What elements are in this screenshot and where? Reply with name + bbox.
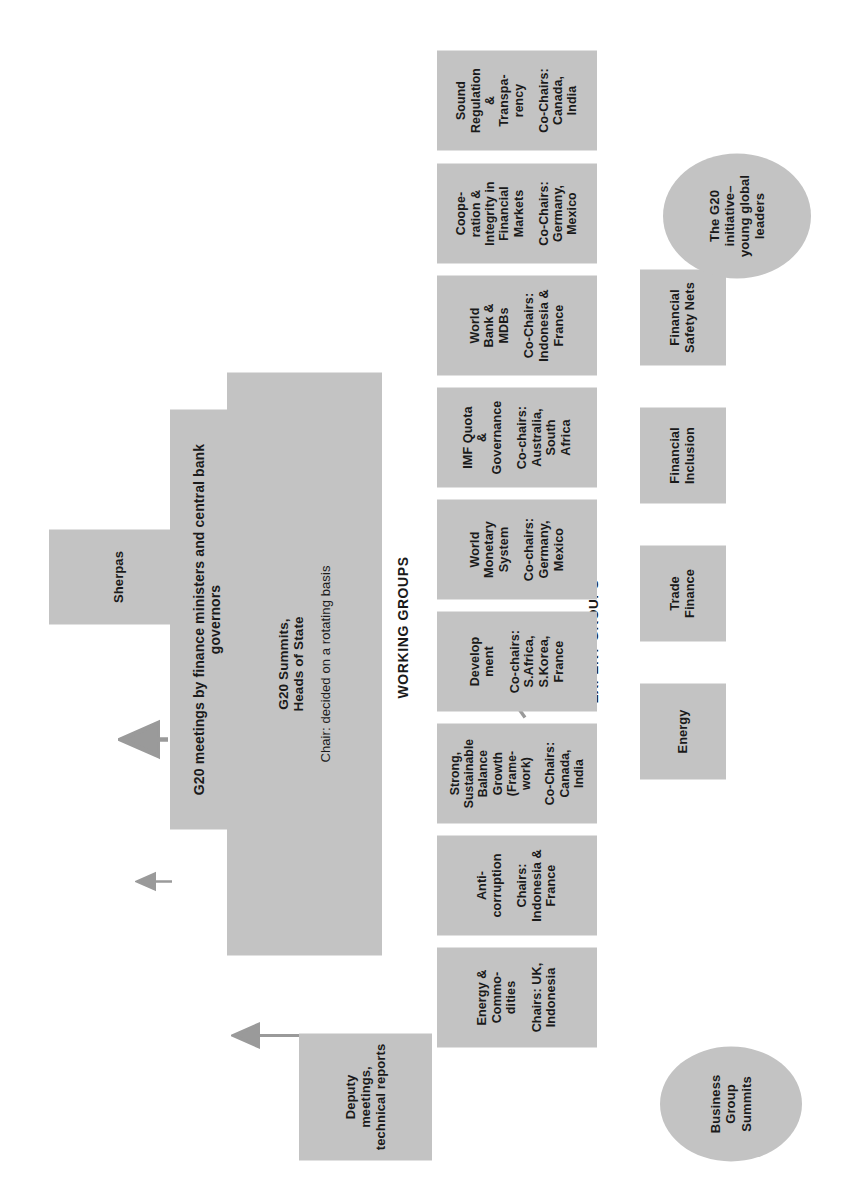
wg-chairs-line: Co-Chairs:: [537, 181, 551, 245]
wg-title-line: (Frame-: [505, 750, 519, 795]
yg-line4: leaders: [752, 192, 767, 238]
wg-chairs-line: Canada,: [551, 76, 565, 125]
node-deputy-meetings[interactable]: Deputy meetings, technical reports: [299, 1033, 432, 1160]
node-g20-summits[interactable]: G20 Summits, Heads of State Chair: decid…: [227, 372, 382, 955]
eg-title-line: Financial: [668, 289, 683, 345]
node-working-group-world-bank-mdbs[interactable]: WorldBank &MDBsCo-Chairs:Indonesia &Fran…: [437, 275, 597, 375]
wg-chairs-line: Indonesia: [544, 967, 559, 1027]
wg-title-line: Strong,: [448, 751, 462, 794]
wg-title-line: World: [468, 531, 483, 567]
wg-title-line: Governance: [490, 400, 505, 474]
wg-chairs-line: Co-chairs:: [508, 629, 523, 692]
wg-title-line: ration &: [469, 189, 483, 237]
node-working-group-framework[interactable]: Strong,SustainableBalanceGrowth(Frame-wo…: [437, 723, 597, 823]
wg-title-line: Energy &: [475, 969, 490, 1025]
wg-chairs-line: Indonesia &: [537, 289, 552, 361]
node-working-group-cooperation-integrity[interactable]: Coope-ration &Integrity inFinancialMarke…: [437, 163, 597, 263]
wg-title-line: Commo-: [490, 971, 505, 1023]
eg-title-line: Finance: [683, 568, 698, 617]
wg-chairs-line: Canada,: [558, 749, 572, 797]
wg-chairs-line: Germany,: [551, 184, 565, 241]
node-working-group-energy-commodities[interactable]: Energy &Commo-ditiesChairs: UK,Indonesia: [437, 947, 597, 1047]
node-working-group-sound-regulation[interactable]: SoundRegulation&Transpa-rencyCo-Chairs:C…: [437, 50, 597, 150]
wg-title-line: System: [497, 526, 512, 571]
wg-chairs-line: Chairs: UK,: [530, 962, 545, 1032]
wg-chairs-line: India: [572, 759, 586, 788]
wg-title-line: Anti-: [475, 870, 490, 899]
node-sherpas-title: Sherpas: [111, 551, 126, 603]
wg-title-line: Growth: [491, 751, 505, 794]
node-expert-group-trade-finance[interactable]: TradeFinance: [640, 545, 726, 641]
wg-title-line: Balance: [476, 749, 490, 796]
node-expert-group-financial-safety-nets[interactable]: FinancialSafety Nets: [640, 269, 726, 365]
wg-title-line: MDBs: [497, 307, 512, 343]
wg-title-line: Integrity in: [483, 181, 497, 246]
node-working-group-anti-corruption[interactable]: Anti-corruptionChairs:Indonesia &France: [437, 835, 597, 935]
diagram-canvas: Sherpas G20 Summits, Heads of State Chai…: [0, 0, 856, 1187]
wg-chairs-line: Co-Chairs:: [522, 292, 537, 357]
node-g20-young-global-leaders[interactable]: The G20 initiative– young global leaders: [663, 153, 811, 278]
ministers-line2: governors: [207, 584, 223, 653]
wg-title-line: Bank &: [482, 303, 497, 347]
wg-chairs-line: Mexico: [552, 527, 567, 570]
node-working-group-world-monetary-system[interactable]: WorldMonetarySystemCo-chairs:Germany,Mex…: [437, 499, 597, 599]
wg-title-line: Sound: [454, 80, 468, 119]
deputies-line3: technical reports: [373, 1043, 388, 1149]
wg-chairs-line: Co-Chairs:: [537, 68, 551, 132]
wg-chairs-line: S.Africa,: [522, 635, 537, 687]
yg-line3: young global: [737, 174, 752, 256]
eg-title-line: Energy: [676, 709, 691, 753]
wg-chairs-line: Co-chairs:: [522, 517, 537, 580]
node-expert-group-financial-inclusion[interactable]: FinancialInclusion: [640, 407, 726, 503]
wg-title-line: ment: [482, 646, 497, 677]
node-sherpas[interactable]: Sherpas: [49, 529, 189, 624]
yg-line1: The G20: [707, 190, 722, 242]
summits-title-line2: Heads of State: [291, 616, 307, 711]
node-working-group-development[interactable]: DevelopmentCo-chairs:S.Africa,S.Korea,Fr…: [437, 611, 597, 711]
eg-title-line: Financial: [668, 427, 683, 483]
node-working-group-imf-quota-governance[interactable]: IMF Quota&GovernanceCo-chairs:Australia,…: [437, 387, 597, 487]
summits-title-line1: G20 Summits,: [276, 618, 292, 709]
wg-title-line: IMF Quota: [461, 406, 476, 468]
ministers-line1: G20 meetings by finance ministers and ce…: [191, 443, 207, 794]
eg-title-line: Safety Nets: [683, 282, 698, 353]
wg-chairs-line: Australia,: [530, 408, 545, 466]
summits-chair-note: Chair: decided on a rotating basis: [318, 565, 333, 762]
wg-title-line: corruption: [490, 853, 505, 917]
eg-title-line: Trade: [668, 576, 683, 611]
wg-title-line: Sustainable: [462, 738, 476, 808]
wg-chairs-line: Chairs:: [515, 863, 530, 907]
node-business-group-summits[interactable]: Business Group Summits: [660, 1046, 802, 1161]
deputies-line2: meetings,: [358, 1066, 373, 1128]
label-working-groups: WORKING GROUPS: [395, 556, 411, 698]
wg-title-line: Regulation: [469, 67, 483, 132]
node-g20-finance-ministers[interactable]: G20 meetings by finance ministers and ce…: [170, 409, 244, 829]
wg-title-line: rency: [512, 83, 526, 117]
wg-chairs-line: France: [552, 640, 567, 682]
wg-title-line: Develop: [468, 636, 483, 686]
wg-chairs-line: Germany,: [537, 520, 552, 578]
wg-chairs-line: Mexico: [565, 192, 579, 235]
wg-title-line: dities: [504, 980, 519, 1014]
bg-line1: Business: [708, 1074, 723, 1133]
wg-chairs-line: Africa: [559, 419, 574, 455]
wg-title-line: Financial: [497, 186, 511, 241]
wg-chairs-line: France: [552, 304, 567, 346]
node-expert-group-energy[interactable]: Energy: [640, 683, 726, 779]
wg-title-line: World: [468, 307, 483, 343]
wg-chairs-line: S.Korea,: [537, 635, 552, 687]
wg-chairs-line: South: [544, 419, 559, 455]
wg-title-line: &: [483, 95, 497, 104]
wg-chairs-line: Co-Chairs:: [543, 741, 557, 804]
wg-chairs-line: France: [544, 864, 559, 906]
wg-chairs-line: Indonesia &: [530, 849, 545, 921]
wg-title-line: Monetary: [482, 521, 497, 578]
wg-title-line: work): [519, 757, 533, 790]
eg-title-line: Inclusion: [683, 426, 698, 483]
wg-chairs-line: India: [565, 85, 579, 114]
wg-title-line: Markets: [512, 189, 526, 237]
deputies-line1: Deputy: [343, 1074, 358, 1119]
wg-title-line: &: [475, 432, 490, 441]
wg-chairs-line: Co-chairs:: [515, 405, 530, 468]
yg-line2: initiative–: [722, 185, 737, 246]
